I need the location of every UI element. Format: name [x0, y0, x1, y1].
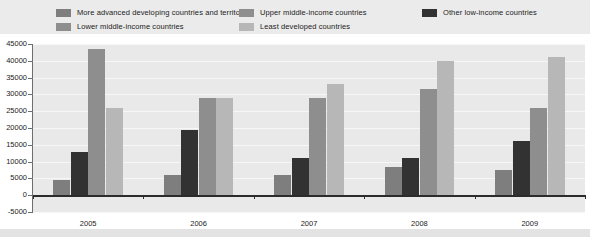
legend-item-lower-middle-income[interactable]: Lower middle-income countries: [56, 21, 184, 32]
x-axis-tick-mark: [585, 195, 586, 199]
y-axis-tick-label: 40000: [0, 57, 27, 65]
y-axis-tick-label: 20000: [0, 124, 27, 132]
bar[interactable]: [530, 108, 547, 195]
bar[interactable]: [548, 57, 565, 195]
legend-item-least-developed[interactable]: Least developed countries: [239, 21, 350, 32]
legend-swatch-lower-middle-income: [56, 23, 71, 31]
x-axis-tick-mark: [33, 195, 34, 199]
x-axis-tick-label: 2008: [399, 219, 439, 228]
gridline: [33, 212, 585, 213]
legend-label-other-low-income: Other low-income countries: [443, 8, 537, 17]
y-axis-tick-label: 10000: [0, 158, 27, 166]
chart-container: More advanced developing countries and t…: [0, 0, 590, 237]
legend-label-more-advanced-developing: More advanced developing countries and t…: [77, 8, 253, 17]
x-axis-tick-mark: [364, 195, 365, 199]
legend-label-least-developed: Least developed countries: [260, 22, 350, 31]
y-axis-tick-label: 25000: [0, 107, 27, 115]
legend-item-more-advanced-developing[interactable]: More advanced developing countries and t…: [56, 7, 253, 18]
legend-item-other-low-income[interactable]: Other low-income countries: [422, 7, 537, 18]
x-axis-tick-label: 2009: [510, 219, 550, 228]
y-axis-tick-mark: [28, 212, 32, 213]
legend-swatch-other-low-income: [422, 9, 437, 17]
y-axis-tick-label: 15000: [0, 141, 27, 149]
bar-group-2009: [33, 44, 585, 212]
y-axis-tick-label: 30000: [0, 90, 27, 98]
y-axis-tick-label: 5000: [0, 174, 27, 182]
y-axis-tick-label: 45000: [0, 40, 27, 48]
y-axis-tick-mark: [28, 61, 32, 62]
y-axis-tick-mark: [28, 178, 32, 179]
y-axis-tick-mark: [28, 44, 32, 45]
y-axis-tick-label: 0: [0, 191, 27, 199]
footer-strip: [0, 229, 590, 237]
y-axis-tick-mark: [28, 195, 32, 196]
legend-item-upper-middle-income[interactable]: Upper middle-income countries: [239, 7, 367, 18]
plot-area: [33, 44, 585, 212]
zero-axis-line: [33, 195, 585, 196]
x-axis-tick-mark: [475, 195, 476, 199]
y-axis-tick-label: -5000: [0, 208, 27, 216]
y-axis-tick-label: 35000: [0, 74, 27, 82]
x-axis-tick-label: 2007: [289, 219, 329, 228]
x-axis-tick-mark: [143, 195, 144, 199]
bar[interactable]: [495, 170, 512, 195]
x-axis-tick-mark: [254, 195, 255, 199]
y-axis-tick-mark: [28, 78, 32, 79]
legend-label-lower-middle-income: Lower middle-income countries: [77, 22, 184, 31]
legend-swatch-upper-middle-income: [239, 9, 254, 17]
legend-label-upper-middle-income: Upper middle-income countries: [260, 8, 367, 17]
x-axis-tick-label: 2005: [68, 219, 108, 228]
chart-legend: More advanced developing countries and t…: [0, 0, 590, 34]
y-axis-tick-mark: [28, 128, 32, 129]
bar[interactable]: [513, 141, 530, 195]
y-axis-tick-mark: [28, 162, 32, 163]
y-axis-tick-mark: [28, 145, 32, 146]
legend-swatch-least-developed: [239, 23, 254, 31]
y-axis-tick-mark: [28, 111, 32, 112]
x-axis-tick-label: 2006: [179, 219, 219, 228]
y-axis-tick-mark: [28, 94, 32, 95]
legend-swatch-more-advanced-developing: [56, 9, 71, 17]
